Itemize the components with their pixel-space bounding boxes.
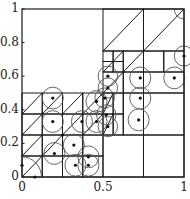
grid-cell [144, 93, 185, 135]
data-point [74, 164, 77, 167]
data-point [95, 120, 98, 123]
data-point [53, 152, 56, 155]
grid-cell [83, 135, 103, 156]
x-tick-label: 1 [180, 181, 188, 193]
grid-cell [42, 114, 62, 135]
y-tick-label: 0.4 [0, 103, 19, 115]
grid-cell [113, 62, 123, 73]
data-point [87, 155, 90, 158]
data-point [51, 96, 54, 99]
data-point [173, 76, 176, 79]
data-point [72, 143, 75, 146]
data-point [139, 96, 142, 99]
data-point [106, 125, 109, 128]
x-tick-label: 0.5 [93, 181, 112, 193]
cell-diagonal [22, 156, 42, 177]
y-tick-label: 0.2 [0, 136, 19, 148]
grid-cell [113, 93, 123, 114]
grid-cell [103, 135, 144, 177]
grid-cell [113, 114, 123, 135]
data-point [137, 118, 140, 121]
cell-diagonal [22, 93, 42, 114]
cell-diagonal [22, 135, 42, 156]
data-point [139, 76, 142, 79]
cell-diagonal [42, 135, 62, 156]
y-tick-label: 0.6 [0, 69, 19, 81]
partition-diagram [0, 0, 190, 199]
data-point [106, 86, 109, 89]
data-point [51, 120, 54, 123]
grid-cell [103, 51, 113, 62]
cell-diagonal [22, 114, 42, 135]
y-tick-label: 0.8 [0, 36, 19, 48]
data-point [106, 75, 109, 78]
neighborhood-circle [174, 46, 190, 66]
cell-diagonal [103, 9, 144, 51]
x-tick-label: 0 [18, 181, 26, 193]
y-tick-label: 1 [11, 2, 19, 14]
data-point [103, 96, 106, 99]
data-point [95, 100, 98, 103]
data-point [87, 164, 90, 167]
data-point [80, 120, 83, 123]
data-point [105, 113, 108, 116]
cell-diagonal [113, 51, 123, 62]
data-point [61, 133, 64, 136]
grid-cell [144, 135, 185, 177]
cell-diagonal [144, 9, 185, 51]
cell-diagonal [103, 93, 113, 114]
point-circles [42, 46, 190, 176]
